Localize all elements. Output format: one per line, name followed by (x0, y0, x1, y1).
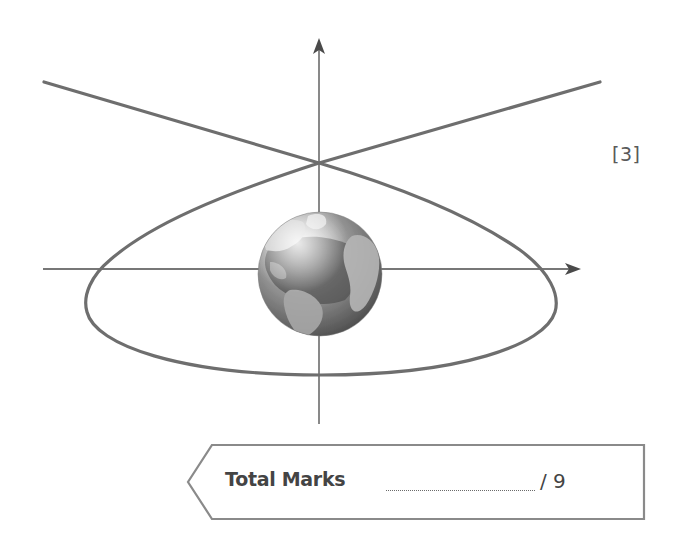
earth-globe-icon (258, 212, 382, 338)
total-marks-max: / 9 (540, 469, 566, 493)
total-marks-answer-line[interactable] (386, 490, 535, 491)
total-marks-box: Total Marks / 9 (186, 444, 646, 520)
total-marks-label: Total Marks (225, 468, 345, 490)
question-marks: [3] (612, 143, 640, 165)
